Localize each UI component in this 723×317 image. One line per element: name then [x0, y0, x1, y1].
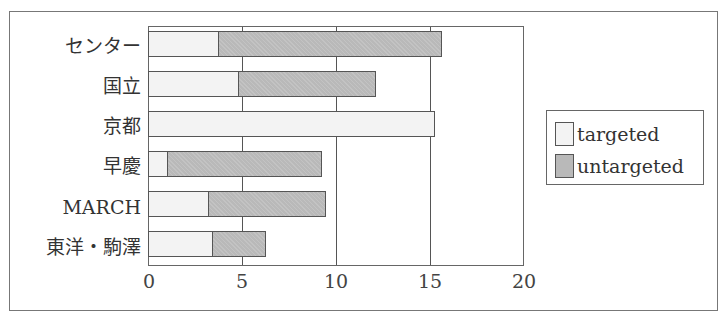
bar-segment-targeted — [148, 191, 209, 217]
y-label-kokuritsu: 国立 — [103, 73, 141, 99]
x-tick-20: 20 — [512, 270, 536, 292]
bar-segment-untargeted — [212, 231, 266, 257]
legend-item-targeted: targeted — [555, 121, 660, 147]
y-label-center: センター — [65, 33, 141, 59]
bar-segment-untargeted — [167, 151, 322, 177]
x-tick-5: 5 — [236, 270, 248, 292]
legend-swatch-targeted — [555, 122, 574, 146]
bar-segment-targeted — [148, 151, 168, 177]
x-tick-15: 15 — [418, 270, 442, 292]
gridline-15 — [430, 27, 431, 265]
legend-label: untargeted — [577, 155, 684, 177]
bar-segment-untargeted — [238, 71, 376, 97]
x-tick-10: 10 — [324, 270, 348, 292]
plot-area — [148, 26, 524, 266]
y-label-march: MARCH — [62, 194, 141, 220]
bar-segment-untargeted — [218, 31, 443, 57]
gridline-5 — [242, 27, 243, 265]
x-tick-0: 0 — [143, 270, 155, 292]
legend-item-untargeted: untargeted — [555, 153, 684, 179]
y-label-toyo-komazawa: 東洋・駒澤 — [46, 234, 141, 260]
bar-segment-targeted — [148, 31, 219, 57]
bar-segment-untargeted — [208, 191, 326, 217]
bar-segment-targeted — [148, 111, 435, 137]
y-label-kyoto: 京都 — [103, 113, 141, 139]
legend-label: targeted — [577, 123, 660, 145]
legend: targeted untargeted — [546, 110, 704, 185]
y-label-soukei: 早慶 — [103, 153, 141, 179]
gridline-10 — [336, 27, 337, 265]
legend-swatch-untargeted — [555, 154, 574, 178]
bar-segment-targeted — [148, 231, 213, 257]
bar-segment-targeted — [148, 71, 239, 97]
